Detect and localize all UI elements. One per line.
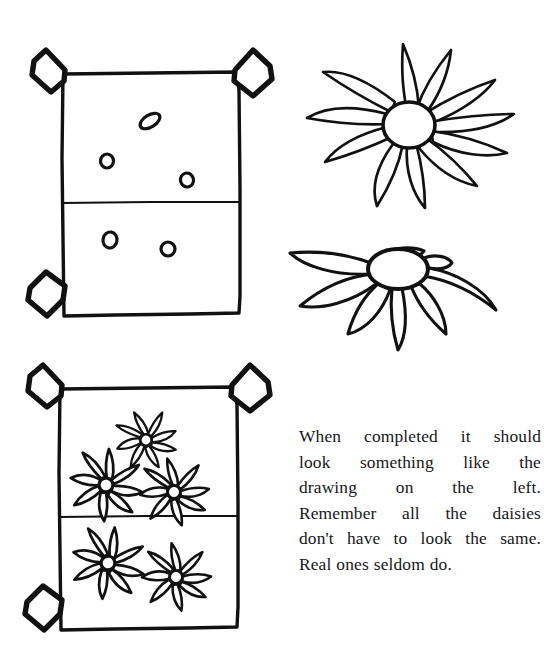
seed <box>161 242 175 256</box>
instruction-line: When completed it should <box>299 424 541 450</box>
instruction-line: drawing on the left. <box>299 475 541 501</box>
petal <box>391 288 405 350</box>
tray-daisy <box>140 541 214 614</box>
illustration-page: When completed it should look something … <box>0 0 557 667</box>
tray-tab-top-left <box>32 50 65 92</box>
figure-tray-with-seeds <box>20 28 285 348</box>
petal <box>290 252 374 274</box>
figure-daisy-side-on <box>278 222 508 357</box>
seed <box>179 172 195 189</box>
seed <box>101 154 114 168</box>
instruction-line: Real ones seldom do. <box>299 552 541 578</box>
tray-divider <box>59 516 237 517</box>
petal <box>323 72 395 112</box>
instruction-line: look something like the <box>299 450 541 476</box>
tray-divider <box>62 202 239 203</box>
petal <box>375 144 403 206</box>
petal <box>411 284 446 334</box>
daisy-center <box>383 102 435 148</box>
tray-daisy-group <box>64 401 213 613</box>
tray-outline <box>62 72 240 316</box>
petal <box>307 108 389 124</box>
tray-outline <box>59 387 238 630</box>
figure-tray-with-flowers <box>18 345 283 657</box>
seed <box>102 231 119 249</box>
tray-daisy <box>64 519 152 607</box>
figure-daisy-face-on <box>285 28 540 223</box>
instruction-line: don't have to look the same. <box>299 526 541 552</box>
tray-tab-top-left <box>28 365 62 407</box>
seed <box>137 110 162 132</box>
instruction-line: Remember all the daisies <box>299 501 541 527</box>
daisy-center <box>368 249 428 289</box>
seed-group <box>101 110 196 256</box>
tray-tab-bottom-left <box>25 586 62 630</box>
tray-daisy <box>136 453 214 530</box>
instruction-paragraph: When completed it should look something … <box>299 424 541 577</box>
tray-tab-bottom-left <box>28 272 65 316</box>
